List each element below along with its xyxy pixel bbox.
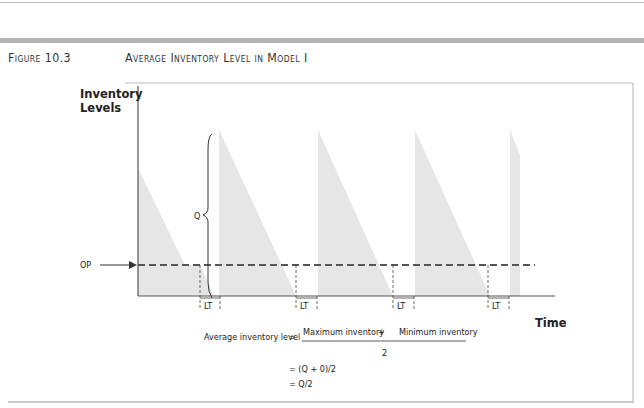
formula-plus: + xyxy=(378,327,385,337)
formula-numerator-right: Minimum inventory xyxy=(399,327,478,337)
inventory-diagram: OP Q LT LT LT LT Inventory Levels Time xyxy=(0,0,644,408)
formula-numerator-left: Maximum inventory xyxy=(303,327,384,337)
formula-denominator: 2 xyxy=(382,348,387,358)
safety-fill xyxy=(138,265,214,296)
y-axis-label-line1: Inventory xyxy=(80,87,143,101)
lt-label-1: LT xyxy=(204,301,212,311)
q-label: Q xyxy=(194,211,200,221)
q-brace xyxy=(203,134,212,298)
lt-label-2: LT xyxy=(300,301,308,311)
lt-label-3: LT xyxy=(397,301,405,311)
y-axis-label-line2: Levels xyxy=(80,101,121,115)
lt-label-4: LT xyxy=(492,301,500,311)
formula-step3: = Q/2 xyxy=(289,379,313,389)
formula-equals: = xyxy=(289,332,296,342)
formula-lhs: Average inventory level xyxy=(204,332,300,342)
x-axis-label: Time xyxy=(535,316,567,330)
op-arrow-head xyxy=(129,261,137,269)
formula-step2: = (Q + 0)/2 xyxy=(289,364,336,374)
bottom-rule xyxy=(8,401,634,403)
op-label: OP xyxy=(80,260,91,270)
